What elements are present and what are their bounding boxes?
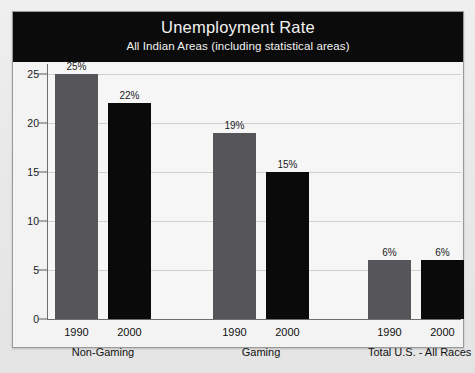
y-axis-tick-mark — [38, 319, 47, 320]
x-axis-labels: 19902000Non-Gaming19902000Gaming19902000… — [48, 322, 461, 372]
x-axis-year-label: 1990 — [55, 326, 98, 338]
bar — [213, 133, 256, 319]
x-axis-year-label: 2000 — [421, 326, 464, 338]
x-axis-group-label: Total U.S. - All Races — [368, 346, 464, 358]
bar-value-label: 22% — [108, 90, 151, 101]
bar — [55, 74, 98, 319]
y-axis-tick-mark — [38, 269, 47, 270]
x-axis-line — [47, 319, 461, 320]
y-axis-tick-mark — [38, 171, 47, 172]
plot-region: 0510152025 25%22%19%15%6%6% 19902000Non-… — [13, 62, 463, 347]
x-axis-year-label: 2000 — [108, 326, 151, 338]
bar-value-label: 19% — [213, 120, 256, 131]
y-axis-tick-mark — [38, 220, 47, 221]
page-title: Unemployment Rate — [13, 16, 463, 38]
x-axis-group-label: Non-Gaming — [55, 346, 151, 358]
x-axis-year-label: 1990 — [368, 326, 411, 338]
x-axis-group-label: Gaming — [213, 346, 309, 358]
page-background: Unemployment Rate All Indian Areas (incl… — [0, 0, 475, 373]
chart-title-band: Unemployment Rate All Indian Areas (incl… — [13, 12, 463, 62]
bar-value-label: 15% — [266, 159, 309, 170]
y-axis-tick-mark — [38, 122, 47, 123]
bar-value-label: 6% — [368, 247, 411, 258]
chart-subtitle: All Indian Areas (including statistical … — [13, 38, 463, 54]
gridline — [48, 74, 461, 75]
bar — [421, 260, 464, 319]
bar — [368, 260, 411, 319]
y-axis-labels: 0510152025 — [13, 62, 43, 320]
y-axis-tick-mark — [38, 73, 47, 74]
bar — [266, 172, 309, 319]
chart-figure: Unemployment Rate All Indian Areas (incl… — [12, 11, 464, 348]
bar-value-label: 6% — [421, 247, 464, 258]
x-axis-year-label: 2000 — [266, 326, 309, 338]
bar-value-label: 25% — [55, 61, 98, 72]
bar — [108, 103, 151, 319]
plot-area: 25%22%19%15%6%6% — [48, 64, 461, 319]
x-axis-year-label: 1990 — [213, 326, 256, 338]
